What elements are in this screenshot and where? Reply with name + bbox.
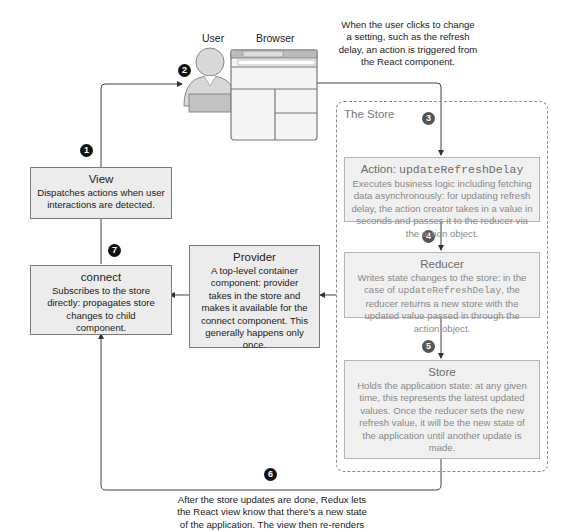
store-group-label: The Store xyxy=(344,108,395,120)
connect-title: connect xyxy=(31,269,171,285)
step-1-badge: 1 xyxy=(80,144,93,157)
user-label: User xyxy=(202,32,224,44)
step-2-badge: 2 xyxy=(178,64,191,77)
action-title-prefix: Action: xyxy=(361,163,399,175)
connect-description: Subscribes to the store directly: propag… xyxy=(31,285,171,335)
browser-label: Browser xyxy=(256,32,295,44)
view-box: View Dispatches actions when user intera… xyxy=(30,167,172,219)
provider-description: A top-level container component: provide… xyxy=(190,265,319,352)
reducer-description: Writes state changes to the store: in th… xyxy=(345,272,539,335)
view-title: View xyxy=(31,171,171,187)
view-description: Dispatches actions when user interaction… xyxy=(31,187,171,212)
action-title: Action: updateRefreshDelay xyxy=(345,161,539,178)
bottom-caption: After the store updates are done, Redux … xyxy=(172,494,372,531)
reducer-box: Reducer Writes state changes to the stor… xyxy=(344,252,540,318)
step-7-badge: 7 xyxy=(108,244,121,257)
store-description: Holds the application state: at any give… xyxy=(345,380,539,454)
store-title: Store xyxy=(345,364,539,380)
step-6-badge: 6 xyxy=(264,468,277,481)
action-title-code: updateRefreshDelay xyxy=(399,163,523,176)
action-description: Executes business logic including fetchi… xyxy=(345,178,539,240)
reducer-title: Reducer xyxy=(345,256,539,272)
reducer-desc-code: updateRefreshDelay xyxy=(398,285,502,296)
top-caption: When the user clicks to change a setting… xyxy=(338,19,478,69)
provider-title: Provider xyxy=(190,249,319,265)
store-box: Store Holds the application state: at an… xyxy=(344,360,540,459)
browser-window-icon xyxy=(230,49,318,141)
action-box: Action: updateRefreshDelay Executes busi… xyxy=(344,157,540,222)
provider-box: Provider A top-level container component… xyxy=(189,245,320,348)
connect-box: connect Subscribes to the store directly… xyxy=(30,265,172,335)
line-view-to-user xyxy=(101,84,182,170)
